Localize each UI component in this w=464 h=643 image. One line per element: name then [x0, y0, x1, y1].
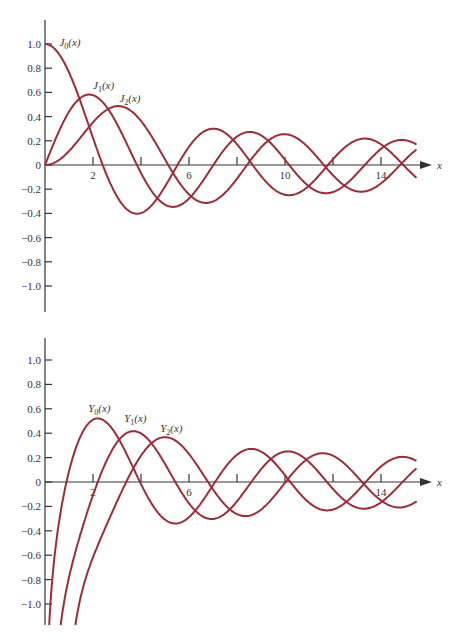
curve-y0x: [49, 419, 416, 626]
curve-label: J1(x): [93, 79, 114, 94]
y-tick-label: −0.8: [21, 256, 41, 268]
y-tick-label: 1.0: [27, 354, 41, 366]
y-tick-label: 0.2: [27, 452, 41, 464]
x-tick-label: 2: [90, 169, 96, 181]
y-tick-label: −1.0: [21, 598, 41, 610]
y-tick-label: −0.8: [21, 574, 41, 586]
x-tick-label: 6: [186, 169, 192, 181]
curve-j1x: [45, 95, 417, 207]
y-tick-label: −0.6: [21, 232, 41, 244]
curve-label: Y0(x): [88, 402, 111, 417]
y-tick-label: −0.4: [21, 525, 41, 537]
y-tick-label: 0.6: [27, 403, 41, 415]
x-axis-arrow-icon: [420, 161, 432, 169]
y-tick-label: 0.8: [27, 378, 41, 390]
curve-label: Y1(x): [124, 412, 147, 427]
curve-label: J0(x): [59, 36, 80, 51]
y-tick-label: 0.2: [27, 135, 41, 147]
curve-y1x: [61, 431, 417, 625]
y-tick-label: −1.0: [21, 280, 41, 292]
plot-second-kind: x1.00.80.60.40.20−0.2−0.4−0.6−0.8−1.0261…: [21, 338, 442, 625]
y-tick-label: −0.2: [21, 500, 41, 512]
curve-j0x: [45, 44, 417, 214]
y-tick-label: 0.4: [27, 111, 41, 123]
y-tick-label: 0: [36, 476, 42, 488]
y-tick-label: −0.2: [21, 183, 41, 195]
x-tick-label: 10: [280, 169, 292, 181]
curve-label: Y2(x): [160, 422, 183, 437]
y-tick-label: 0.4: [27, 427, 41, 439]
x-axis-arrow-icon: [420, 478, 432, 486]
x-axis-label: x: [436, 476, 442, 488]
curve-label: J2(x): [119, 92, 140, 107]
y-tick-label: 0.6: [27, 86, 41, 98]
curve-y2x: [75, 437, 416, 625]
y-tick-label: 0: [36, 159, 42, 171]
bessel-chart: x1.00.80.60.40.20−0.2−0.4−0.6−0.8−1.0261…: [0, 0, 464, 643]
y-tick-label: 1.0: [27, 38, 41, 50]
x-tick-label: 6: [186, 486, 192, 498]
curve-j2x: [45, 106, 417, 203]
plot-first-kind: x1.00.80.60.40.20−0.2−0.4−0.6−0.8−1.0261…: [21, 20, 442, 312]
x-axis-label: x: [436, 159, 442, 171]
y-tick-label: −0.4: [21, 207, 41, 219]
y-tick-label: 0.8: [27, 62, 41, 74]
y-tick-label: −0.6: [21, 549, 41, 561]
